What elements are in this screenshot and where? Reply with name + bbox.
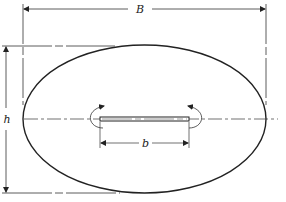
rotation-arrow-right-icon [188, 106, 202, 128]
label-B: B [135, 3, 144, 16]
label-h: h [3, 113, 10, 126]
ellipse-slit-diagram: B h b [0, 0, 286, 202]
label-b: b [142, 137, 149, 150]
